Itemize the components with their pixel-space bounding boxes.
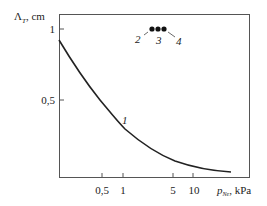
y-tick-label-1: 1: [50, 23, 56, 35]
y-axis-label: ΛT, cm: [14, 10, 45, 25]
marker-2: [149, 26, 154, 31]
chart: 1 0,5 ΛT, cm 0,5 1 5 10 pNe, kPa 1 2 3 4: [0, 0, 267, 206]
curve-label-1: 1: [122, 114, 128, 126]
leader-2: [144, 32, 148, 35]
x-axis-label: pNe, kPa: [216, 184, 251, 197]
x-tick-label-10: 10: [189, 184, 201, 196]
y-axis: 1 0,5 ΛT, cm: [14, 10, 64, 106]
x-tick-label-0-5: 0,5: [95, 184, 109, 196]
plot-frame: [60, 15, 250, 178]
marker-3: [155, 26, 160, 31]
marker-label-2: 2: [135, 33, 141, 45]
x-tick-label-5: 5: [170, 184, 176, 196]
marker-label-3: 3: [155, 34, 162, 46]
markers: 2 3 4: [135, 26, 182, 47]
x-tick-label-1: 1: [120, 184, 126, 196]
marker-4: [161, 26, 166, 31]
x-axis: 0,5 1 5 10 pNe, kPa: [95, 173, 251, 197]
leader-4: [168, 32, 175, 37]
curve-1: [59, 40, 231, 172]
marker-label-4: 4: [176, 35, 182, 47]
y-tick-label-0-5: 0,5: [41, 94, 55, 106]
